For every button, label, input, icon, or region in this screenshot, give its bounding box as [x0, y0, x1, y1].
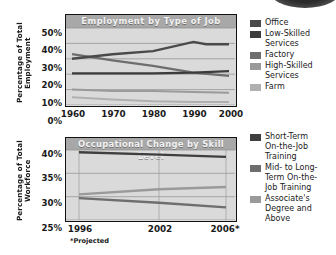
- legend-label: Factory: [265, 50, 294, 60]
- legend-item-mid-to-long-term-on-the-job-training: Mid- to Long- Term On-the- Job Training: [250, 163, 336, 193]
- legend-item-farm: Farm: [250, 82, 336, 92]
- legend-label: Office: [265, 18, 288, 28]
- y-tick: 20%: [41, 80, 62, 90]
- legend-label: Mid- to Long- Term On-the- Job Training: [265, 163, 317, 193]
- legend-swatch-high-skilled-services: [250, 63, 261, 70]
- legend-item-office: Office: [250, 18, 336, 28]
- y-tick: 40%: [41, 149, 62, 159]
- legend-occupational-change-by-skill-level: Short-Term On-the-Job Training Mid- to L…: [250, 132, 336, 225]
- y-axis-ticks-workforce: 40% 35% 30% 25%: [28, 140, 62, 222]
- footnote-projected: *Projected: [70, 237, 109, 245]
- chart-employment-by-type-of-job: Percentage of TotalEmployment 50% 40% 30…: [0, 0, 250, 125]
- y-tick: 30%: [41, 198, 62, 208]
- y-tick: 35%: [41, 173, 62, 183]
- legend-employment-by-type-of-job: Office Low-Skilled Services Factory High…: [250, 18, 336, 93]
- x-tick: 2006*: [210, 224, 239, 234]
- series-line-mid-to-long-term-on-the-job-training: [79, 198, 226, 207]
- corner-logo-fragment: [268, 0, 336, 8]
- legend-label: Farm: [265, 82, 285, 92]
- x-tick: 1970: [101, 109, 125, 119]
- series-line-associates-degree-and-above: [79, 187, 226, 194]
- legend-item-low-skilled-services: Low-Skilled Services: [250, 29, 336, 49]
- series-line-high-skilled-services: [72, 90, 229, 93]
- series-line-farm: [72, 97, 229, 102]
- legend-swatch-office: [250, 20, 261, 27]
- plot-area-workforce: Occupational Change by Skill Level: [65, 137, 237, 222]
- series-line-office: [72, 42, 229, 59]
- y-tick: 50%: [41, 28, 62, 38]
- plot-area-employment: Employment by Type of Job: [65, 14, 237, 107]
- x-tick: 2002: [148, 224, 172, 234]
- y-axis-ticks-employment: 50% 40% 30% 20% 10% 0%: [28, 18, 62, 106]
- x-tick: 1960: [61, 109, 85, 119]
- legend-swatch-short-term-on-the-job-training: [250, 134, 261, 141]
- y-tick: 30%: [41, 63, 62, 73]
- chart-occupational-change-by-skill-level: Percentage of TotalWorkforce 40% 35% 30%…: [0, 130, 250, 255]
- legend-item-short-term-on-the-job-training: Short-Term On-the-Job Training: [250, 132, 336, 162]
- legend-item-high-skilled-services: High-Skilled Services: [250, 61, 336, 81]
- x-tick: 1990: [182, 109, 206, 119]
- legend-label: Short-Term On-the-Job Training: [265, 132, 308, 162]
- x-tick: 1980: [142, 109, 166, 119]
- legend-swatch-associates-degree-and-above: [250, 196, 261, 203]
- legend-item-associates-degree-and-above: Associate's Degree and Above: [250, 194, 336, 224]
- workforce-series-svg: [66, 138, 235, 220]
- legend-swatch-mid-to-long-term-on-the-job-training: [250, 165, 261, 172]
- y-tick: 25%: [41, 223, 62, 233]
- legend-swatch-factory: [250, 52, 261, 59]
- legend-label: Low-Skilled Services: [265, 29, 310, 49]
- legend-label: Associate's Degree and Above: [265, 194, 312, 224]
- legend-label: High-Skilled Services: [265, 61, 313, 81]
- legend-item-factory: Factory: [250, 50, 336, 60]
- employment-series-svg: [66, 15, 235, 105]
- series-line-low-skilled-services: [72, 71, 229, 73]
- x-tick: 1996: [68, 224, 92, 234]
- y-tick: 10%: [41, 98, 62, 108]
- y-tick: 40%: [41, 45, 62, 55]
- x-tick: 2000: [219, 109, 243, 119]
- legend-swatch-farm: [250, 84, 261, 91]
- series-line-short-term-on-the-job-training: [79, 152, 226, 157]
- legend-swatch-low-skilled-services: [250, 31, 261, 38]
